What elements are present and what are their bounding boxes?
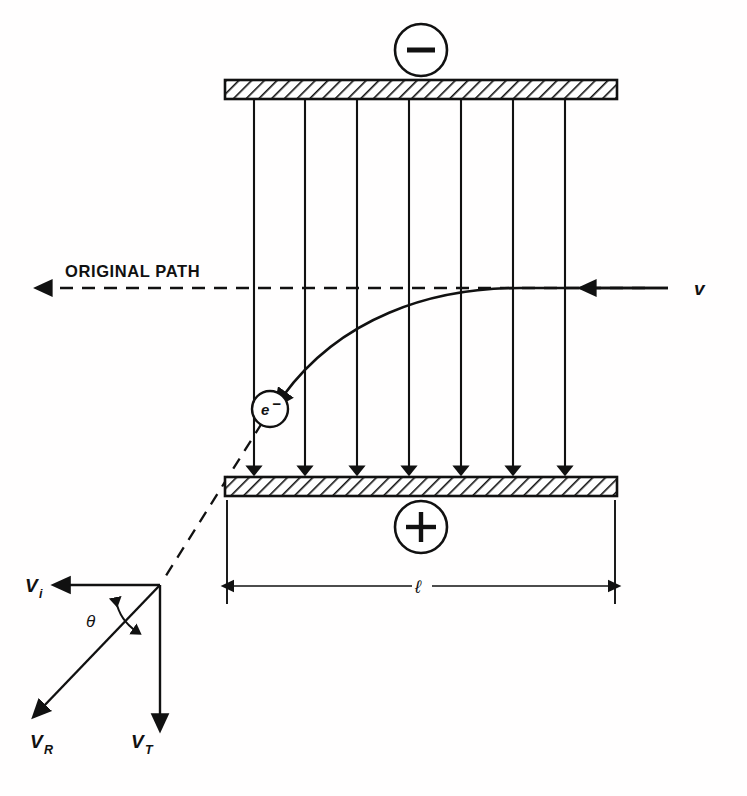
incoming-velocity-label: v (694, 278, 706, 299)
vector-vr-subscript: R (44, 743, 53, 757)
vector-vt-subscript: T (145, 743, 154, 757)
trajectory-tangent-dashed (162, 423, 262, 582)
angle-theta-label: θ (86, 612, 96, 631)
original-path-label: ORIGINAL PATH (65, 262, 200, 280)
top-plate-group (225, 24, 617, 99)
vector-vi-label: V (25, 575, 39, 596)
electron-charge-label: − (272, 395, 281, 412)
velocity-vector-diagram (42, 585, 160, 718)
plate-length-label: ℓ (414, 577, 422, 597)
physics-diagram-figure: ORIGINAL PATH v e − ℓ V i V R V T θ (0, 0, 747, 796)
vector-vt-label: V (131, 731, 145, 752)
diagram-canvas: ORIGINAL PATH v e − ℓ V i V R V T θ (0, 0, 747, 796)
vector-vr-label: V (30, 731, 44, 752)
electron-curved-path (283, 288, 668, 396)
electric-field-lines (254, 99, 565, 470)
bottom-plate-group (225, 477, 617, 553)
electron-label: e (261, 401, 269, 418)
top-plate (225, 80, 617, 99)
bottom-plate (225, 477, 617, 496)
electron-circle (252, 391, 288, 427)
vector-vr-arrow (42, 585, 160, 708)
vector-vi-subscript: i (39, 587, 43, 601)
